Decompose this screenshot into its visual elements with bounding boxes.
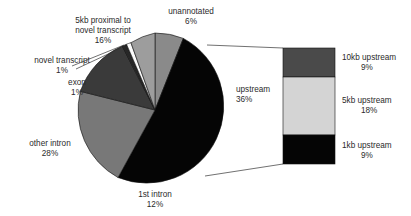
pie-slices-group xyxy=(78,33,224,183)
label-exon-percent: 1% xyxy=(71,88,83,97)
label-other-intron-percent: 28% xyxy=(42,149,58,158)
label-upstream: upstream 36% xyxy=(236,85,270,104)
pie-chart-figure: unannotated 6% 5kb proximal to novel tra… xyxy=(0,0,411,216)
label-novel-transcript: novel transcript 1% xyxy=(34,56,90,75)
label-novel-transcript-text: novel transcript xyxy=(34,56,90,65)
label-5kb-upstream-percent: 18% xyxy=(361,106,377,115)
chart-canvas: unannotated 6% 5kb proximal to novel tra… xyxy=(0,0,411,216)
label-10kb-upstream-text: 10kb upstream xyxy=(342,53,396,62)
upstream-breakout-bar xyxy=(283,48,335,164)
breakout-connector-bottom xyxy=(205,164,283,176)
label-5kb-upstream-text: 5kb upstream xyxy=(342,96,392,105)
label-upstream-percent: 36% xyxy=(236,95,252,104)
bar-segment-5kb-upstream[interactable] xyxy=(283,77,335,135)
label-5kb-proximal-percent: 16% xyxy=(95,36,111,45)
label-10kb-upstream: 10kb upstream 9% xyxy=(342,53,396,72)
label-1kb-upstream-text: 1kb upstream xyxy=(342,141,392,150)
bar-segment-10kb-upstream[interactable] xyxy=(283,48,335,77)
label-1st-intron: 1st intron 12% xyxy=(138,190,172,209)
label-upstream-text: upstream xyxy=(236,85,270,94)
label-other-intron: other intron 28% xyxy=(29,139,71,158)
label-5kb-proximal: 5kb proximal to novel transcript 16% xyxy=(75,16,131,45)
label-other-intron-text: other intron xyxy=(29,139,71,148)
label-5kb-upstream: 5kb upstream 18% xyxy=(342,96,392,115)
label-1st-intron-text: 1st intron xyxy=(138,190,172,199)
label-novel-transcript-percent: 1% xyxy=(56,66,68,75)
label-5kb-proximal-text-line2: novel transcript xyxy=(75,26,131,35)
label-10kb-upstream-percent: 9% xyxy=(361,63,373,72)
label-1st-intron-percent: 12% xyxy=(147,200,163,209)
label-1kb-upstream: 1kb upstream 9% xyxy=(342,141,392,160)
label-unannotated-percent: 6% xyxy=(185,17,197,26)
breakout-connector-top xyxy=(207,45,283,48)
label-1kb-upstream-percent: 9% xyxy=(361,151,373,160)
label-exon-text: exon xyxy=(68,78,86,87)
bar-segment-1kb-upstream[interactable] xyxy=(283,135,335,164)
label-unannotated: unannotated 6% xyxy=(168,7,214,26)
label-5kb-proximal-text-line1: 5kb proximal to xyxy=(75,16,131,25)
label-unannotated-text: unannotated xyxy=(168,7,214,16)
